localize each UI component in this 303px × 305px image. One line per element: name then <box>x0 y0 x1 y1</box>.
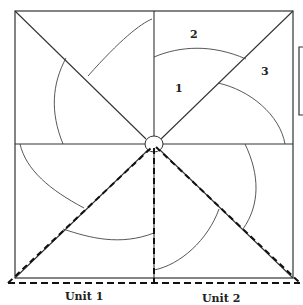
arc-top-right-lower <box>218 83 285 144</box>
diagram-canvas: 1 2 3 Unit 1 Unit 2 <box>0 0 303 305</box>
right-bracket <box>299 47 303 115</box>
diagonal-top-right <box>161 11 293 139</box>
arc-top-left-inner <box>54 58 66 144</box>
region-label-3: 3 <box>261 65 269 78</box>
arc-bottom-left-lower <box>63 229 154 240</box>
arc-top-right-upper <box>154 48 246 59</box>
region-label-2: 2 <box>190 28 198 41</box>
diagonal-top-left <box>15 11 146 139</box>
unit-label-1: Unit 1 <box>65 290 103 303</box>
arc-bottom-right-upper <box>243 144 256 229</box>
arc-bottom-right-lower <box>154 209 219 270</box>
arc-bottom-left-upper <box>20 144 84 208</box>
region-label-1: 1 <box>175 82 183 95</box>
unit-label-2: Unit 2 <box>202 292 240 305</box>
arc-top-left-outer <box>88 19 152 76</box>
